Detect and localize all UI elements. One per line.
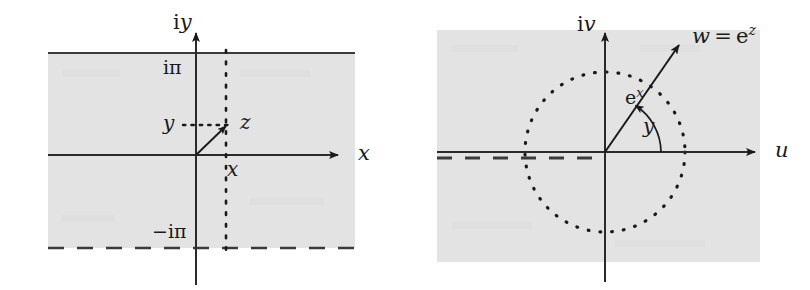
left-lower-boundary-label: −iπ: [152, 222, 187, 241]
left-point-label: z: [240, 112, 251, 132]
left-vertical-axis-label: iy: [173, 12, 192, 33]
left-panel-group: [48, 33, 355, 285]
left-upper-boundary-label: iπ: [163, 58, 182, 77]
right-modulus-label: ex: [625, 87, 644, 107]
right-vector-label: w = ez: [692, 23, 756, 47]
left-horizontal-axis-label: x: [358, 143, 370, 164]
left-imaginary-part-label: y: [163, 113, 174, 133]
figure-canvas: [0, 0, 810, 290]
exponential-map-figure: iy x iπ −iπ z y x iv u w = ez ex y: [0, 0, 810, 290]
left-real-part-label: x: [227, 159, 238, 179]
right-horizontal-axis-label: u: [775, 140, 789, 161]
right-panel-group: [437, 30, 760, 282]
right-vertical-axis-label: iv: [577, 14, 596, 35]
right-angle-label: y: [643, 116, 654, 136]
